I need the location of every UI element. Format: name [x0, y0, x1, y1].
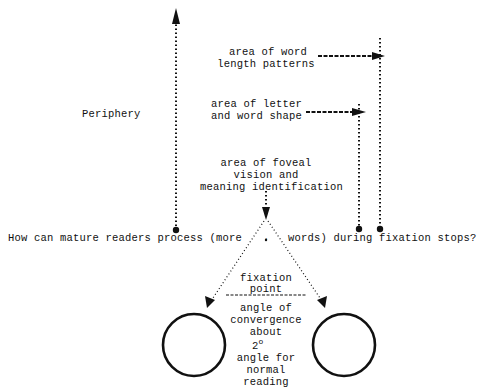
word-length-line — [377, 38, 383, 232]
question-text-dot: . — [263, 231, 270, 243]
foveal-label-1: area of foveal — [200, 157, 332, 169]
letter-shape-label-1: area of letter — [211, 98, 302, 110]
reading-label-1: angle for — [220, 352, 312, 364]
foveal-label-2: vision and — [200, 169, 332, 181]
question-text-part2: words) during fixation stops? — [288, 232, 477, 244]
word-length-arrow — [318, 52, 385, 60]
right-eye-circle — [313, 314, 375, 376]
word-length-label-1: area of word — [218, 46, 318, 58]
down-arrow-icon — [262, 207, 270, 220]
convergence-label-1: angle of — [220, 302, 312, 314]
foveal-label-3: meaning identification — [200, 181, 332, 193]
letter-shape-label-2: and word shape — [211, 110, 302, 122]
reading-label-2: normal — [220, 364, 312, 376]
degrees-value: 2 — [252, 340, 259, 352]
fixation-label-2: point — [226, 283, 306, 295]
letter-shape-line — [356, 104, 362, 232]
letter-shape-arrow — [306, 108, 366, 116]
up-arrow-icon — [172, 8, 180, 24]
convergence-label-2: convergence — [220, 314, 312, 326]
left-eye-circle — [163, 314, 225, 376]
right-arrow-icon — [372, 52, 385, 60]
reading-label-3: reading — [220, 376, 312, 388]
degree-symbol: o — [259, 337, 264, 346]
periphery-label: Periphery — [82, 108, 141, 120]
word-length-label-2: length patterns — [212, 58, 320, 70]
foveal-arrow — [262, 191, 270, 220]
convergence-label-3: about — [220, 326, 312, 338]
periphery-line — [172, 8, 180, 233]
question-text-part1: How can mature readers process (more — [8, 232, 242, 244]
arrow-right-eye-icon — [317, 296, 327, 308]
